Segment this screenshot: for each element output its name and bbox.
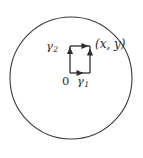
label-gamma-1: γ1 [77,76,89,89]
label-gamma-1-base: γ [77,74,84,88]
label-point-xy: (x, y) [95,38,126,50]
arrowhead-top-right-icon [82,43,89,49]
label-gamma-2: γ2 [46,41,58,54]
arrowhead-left-up-icon [67,47,73,54]
arrowhead-right-up-icon [87,49,93,56]
label-origin-point: 0 [62,76,69,88]
figure-canvas [0,0,143,158]
label-gamma-2-subscript: 2 [53,45,58,54]
label-gamma-2-base: γ [46,39,53,53]
math-figure-diagram: γ2 γ1 0 (x, y) [0,0,143,158]
disk-boundary-circle [10,17,132,139]
label-gamma-1-subscript: 1 [84,80,89,89]
